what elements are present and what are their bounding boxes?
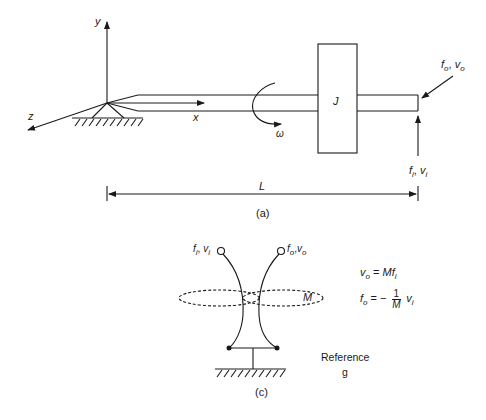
z-axis-label: z	[28, 111, 34, 122]
length-label: L	[259, 181, 265, 192]
coupling-label: M	[303, 292, 312, 303]
diagram-canvas	[0, 0, 486, 420]
coupling-ellipses	[179, 290, 323, 306]
equation-2: fo = − 1M vi	[360, 289, 413, 310]
terminal-dot-left	[227, 346, 232, 351]
inertia-label: J	[333, 96, 339, 107]
c-output-port-label: fo,vo	[287, 244, 306, 257]
caption-a: (a)	[256, 208, 269, 219]
x-axis-label: x	[193, 112, 199, 123]
caption-c: (c)	[255, 387, 268, 398]
z-axis	[28, 103, 107, 130]
omega-label: ω	[276, 129, 284, 139]
output-force-arrow	[422, 76, 453, 98]
c-input-port-label: fi, vi	[193, 244, 210, 257]
y-axis-label: y	[95, 16, 101, 27]
equation-1: vo = Mfi	[360, 267, 397, 281]
rotation-arrow	[253, 83, 281, 124]
input-port-label: fi, vi	[409, 165, 427, 179]
reference-symbol: g	[342, 367, 348, 378]
output-port-label: fo, vo	[441, 59, 465, 73]
terminal-dot-right	[275, 346, 280, 351]
reference-label: Reference	[321, 352, 369, 363]
fixed-support-a	[72, 103, 143, 126]
mobility-gyrator	[215, 248, 286, 378]
